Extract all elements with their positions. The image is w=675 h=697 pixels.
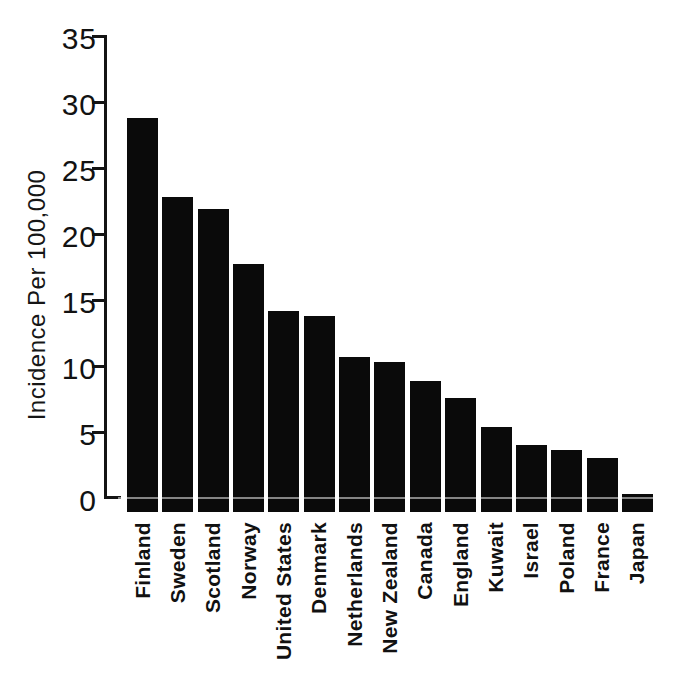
bar-chart: Incidence Per 100,000 05101520253035 Fin… [0, 0, 675, 697]
bar-israel [516, 445, 547, 512]
x-label-poland: Poland [556, 522, 578, 594]
x-label-kuwait: Kuwait [485, 522, 507, 593]
y-tick-label-15: 15 [0, 287, 97, 319]
x-label-norway: Norway [238, 522, 260, 600]
bar-new-zealand [374, 362, 405, 512]
y-tick-label-30: 30 [0, 89, 97, 121]
bar-france [587, 458, 618, 512]
x-label-israel: Israel [520, 522, 542, 579]
x-label-denmark: Denmark [308, 522, 330, 614]
bar-poland [551, 450, 582, 512]
x-label-japan: Japan [626, 522, 648, 584]
x-label-sweden: Sweden [167, 522, 189, 603]
y-axis-line [104, 36, 107, 499]
y-tick-label-5: 5 [0, 419, 97, 451]
baseline-hairline [118, 497, 655, 499]
y-tick-label-35: 35 [0, 23, 97, 55]
y-tick-label-20: 20 [0, 221, 97, 253]
bar-finland [127, 118, 158, 512]
y-tick-label-10: 10 [0, 353, 97, 385]
bar-sweden [162, 197, 193, 512]
y-tick-label-25: 25 [0, 155, 97, 187]
y-tick-label-0: 0 [0, 485, 97, 517]
bar-kuwait [481, 427, 512, 512]
bar-canada [410, 381, 441, 512]
x-label-finland: Finland [132, 522, 154, 599]
x-label-scotland: Scotland [202, 522, 224, 613]
x-label-new-zealand: New Zealand [379, 522, 401, 654]
x-label-united-states: United States [273, 522, 295, 660]
bar-netherlands [339, 357, 370, 512]
x-label-france: France [591, 522, 613, 593]
bar-united-states [268, 311, 299, 512]
bar-scotland [198, 209, 229, 512]
x-label-netherlands: Netherlands [344, 522, 366, 647]
bar-denmark [304, 316, 335, 512]
x-label-england: England [450, 522, 472, 607]
x-label-canada: Canada [414, 522, 436, 600]
bar-norway [233, 264, 264, 512]
bar-england [445, 398, 476, 512]
